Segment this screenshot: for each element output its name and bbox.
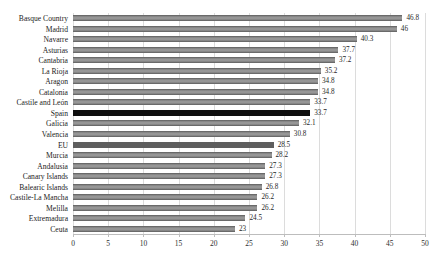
bar (73, 142, 274, 148)
axis-tick (214, 234, 215, 237)
bar-row: Navarre40.3 (73, 34, 425, 45)
axis-tick-label: 20 (210, 239, 218, 248)
value-label: 37.2 (339, 56, 352, 64)
value-label: 32.1 (303, 119, 316, 127)
bar-row: Cantabria37.2 (73, 55, 425, 66)
bar-row: Catalonia34.8 (73, 87, 425, 98)
value-label: 35.2 (325, 67, 338, 75)
bar (73, 131, 290, 137)
value-label: 28.2 (276, 151, 289, 159)
axis-tick-label: 30 (280, 239, 288, 248)
category-label: Catalonia (0, 87, 68, 96)
value-label: 46.8 (406, 14, 419, 22)
category-label: Extremadura (0, 214, 68, 223)
axis-tick-label: 50 (421, 239, 429, 248)
bar-row: Castile-La Mancha26.2 (73, 192, 425, 203)
bar-row: Aragon34.8 (73, 76, 425, 87)
value-label: 23 (239, 225, 246, 233)
bar-row: Extremadura24.5 (73, 213, 425, 224)
value-label: 40.3 (361, 35, 374, 43)
bar-row: Madrid46 (73, 24, 425, 35)
value-label: 26.2 (261, 204, 274, 212)
bar-row: Asturias37.7 (73, 45, 425, 56)
category-label: Aragon (0, 77, 68, 86)
axis-tick-label: 35 (316, 239, 324, 248)
axis-tick (73, 234, 74, 237)
axis-tick (108, 234, 109, 237)
category-label: Balearic Islands (0, 182, 68, 191)
axis-tick-label: 25 (245, 239, 253, 248)
axis-tick (425, 234, 426, 237)
bar (73, 173, 265, 179)
axis-tick (143, 234, 144, 237)
bar (73, 110, 310, 116)
bar-row: Melilla26.2 (73, 202, 425, 213)
value-label: 27.3 (269, 172, 282, 180)
bar (73, 78, 318, 84)
bar (73, 47, 338, 53)
bar (73, 184, 262, 190)
category-label: Cantabria (0, 56, 68, 65)
axis-tick (390, 234, 391, 237)
bar-chart: 05101520253035404550Basque Country46.8Ma… (0, 0, 440, 257)
value-label: 33.7 (314, 109, 327, 117)
bar (73, 99, 310, 105)
category-label: La Rioja (0, 66, 68, 75)
value-label: 30.8 (294, 130, 307, 138)
axis-tick (284, 234, 285, 237)
value-label: 28.5 (278, 141, 291, 149)
bar-row: EU28.5 (73, 139, 425, 150)
category-label: EU (0, 140, 68, 149)
bar-row: Galicia32.1 (73, 118, 425, 129)
bar (73, 194, 257, 200)
category-label: Basque Country (0, 14, 68, 23)
axis-tick (355, 234, 356, 237)
category-label: Castile and León (0, 98, 68, 107)
category-label: Canary Islands (0, 172, 68, 181)
category-label: Asturias (0, 45, 68, 54)
bar-row: Canary Islands27.3 (73, 171, 425, 182)
bar (73, 163, 265, 169)
value-label: 26.2 (261, 193, 274, 201)
category-label: Castile-La Mancha (0, 193, 68, 202)
value-label: 24.5 (249, 214, 262, 222)
bar (73, 68, 321, 74)
category-label: Andalusia (0, 161, 68, 170)
axis-tick-label: 10 (140, 239, 148, 248)
plot-area: 05101520253035404550Basque Country46.8Ma… (73, 13, 425, 235)
bar-row: Ceuta23 (73, 223, 425, 234)
bar (73, 89, 318, 95)
value-label: 27.3 (269, 162, 282, 170)
value-label: 37.7 (342, 46, 355, 54)
bar (73, 215, 245, 221)
bar-row: Spain33.7 (73, 108, 425, 119)
value-label: 33.7 (314, 98, 327, 106)
category-label: Navarre (0, 35, 68, 44)
bar-row: Andalusia27.3 (73, 160, 425, 171)
bar-row: Castile and León33.7 (73, 97, 425, 108)
category-label: Valencia (0, 130, 68, 139)
category-label: Murcia (0, 151, 68, 160)
value-label: 34.8 (322, 77, 335, 85)
gridline (425, 13, 426, 234)
bar (73, 120, 299, 126)
bar (73, 26, 397, 32)
bar (73, 15, 402, 21)
bar (73, 36, 357, 42)
bar-row: Murcia28.2 (73, 150, 425, 161)
axis-tick (179, 234, 180, 237)
axis-tick (249, 234, 250, 237)
category-label: Spain (0, 108, 68, 117)
axis-tick-label: 15 (175, 239, 183, 248)
bar (73, 152, 272, 158)
axis-tick-label: 5 (106, 239, 110, 248)
bar (73, 57, 335, 63)
axis-tick (319, 234, 320, 237)
value-label: 46 (401, 25, 408, 33)
value-label: 34.8 (322, 88, 335, 96)
category-label: Melilla (0, 203, 68, 212)
axis-tick-label: 45 (386, 239, 394, 248)
value-label: 26.8 (266, 183, 279, 191)
bar-row: Valencia30.8 (73, 129, 425, 140)
category-label: Madrid (0, 24, 68, 33)
